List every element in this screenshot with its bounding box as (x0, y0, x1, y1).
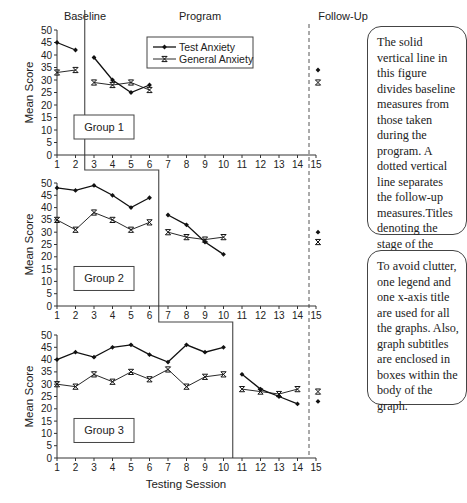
y-tick-label: 20 (41, 403, 53, 414)
general-anxiety-marker (315, 389, 320, 394)
test-anxiety-marker (55, 357, 60, 362)
y-tick-label: 15 (41, 416, 53, 427)
y-tick-label: 30 (41, 379, 53, 390)
y-tick-label: 50 (41, 178, 53, 189)
test-anxiety-marker (110, 345, 115, 350)
y-tick-label: 15 (41, 264, 53, 275)
group-subtitle: Group 1 (84, 121, 124, 133)
x-tick-label: 1 (54, 310, 60, 321)
x-tick-label: 13 (273, 462, 285, 473)
general-anxiety-marker (147, 87, 152, 92)
y-tick-label: 40 (41, 202, 53, 213)
x-tick-label: 6 (147, 159, 153, 170)
annotation-note-legend: To avoid clutter, one legend and one x-a… (367, 250, 467, 405)
test-anxiety-marker (221, 345, 226, 350)
x-tick-label: 1 (54, 159, 60, 170)
y-tick-label: 5 (46, 288, 52, 299)
x-axis-title: Testing Session (146, 478, 227, 490)
x-tick-label: 10 (218, 310, 230, 321)
test-anxiety-line (242, 374, 298, 404)
general-anxiety-line (57, 213, 150, 230)
test-anxiety-marker (316, 399, 321, 404)
y-tick-label: 0 (46, 453, 52, 464)
y-tick-label: 50 (41, 330, 53, 341)
y-tick-label: 20 (41, 100, 53, 111)
x-tick-label: 15 (310, 462, 322, 473)
y-tick-label: 45 (41, 37, 53, 48)
y-axis-title: Mean Score (23, 61, 35, 123)
x-tick-label: 2 (73, 310, 79, 321)
y-tick-label: 10 (41, 428, 53, 439)
test-anxiety-marker (73, 350, 78, 355)
test-anxiety-marker (295, 401, 300, 406)
y-axis-title: Mean Score (23, 213, 35, 275)
stage-title-program: Program (179, 10, 221, 22)
x-tick-label: 10 (218, 159, 230, 170)
x-tick-label: 6 (147, 310, 153, 321)
general-anxiety-marker (128, 369, 133, 374)
test-anxiety-marker (73, 48, 78, 53)
x-tick-label: 10 (218, 462, 230, 473)
y-tick-label: 10 (41, 125, 53, 136)
y-tick-label: 0 (46, 150, 52, 161)
group-subtitle: Group 2 (84, 272, 124, 284)
x-tick-label: 5 (128, 310, 134, 321)
y-tick-label: 40 (41, 354, 53, 365)
x-tick-label: 7 (165, 159, 171, 170)
y-tick-label: 35 (41, 62, 53, 73)
x-tick-label: 7 (165, 310, 171, 321)
x-tick-label: 11 (237, 462, 248, 473)
x-tick-label: 5 (128, 462, 134, 473)
x-tick-label: 8 (184, 310, 190, 321)
test-anxiety-marker (316, 230, 321, 235)
y-tick-label: 20 (41, 251, 53, 262)
y-tick-label: 45 (41, 342, 53, 353)
y-tick-label: 45 (41, 190, 53, 201)
y-tick-label: 0 (46, 301, 52, 312)
x-tick-label: 11 (237, 310, 248, 321)
x-tick-label: 5 (128, 159, 134, 170)
test-anxiety-marker (166, 213, 171, 218)
x-tick-label: 13 (273, 159, 285, 170)
x-tick-label: 6 (147, 462, 153, 473)
x-tick-label: 4 (110, 310, 116, 321)
general-anxiety-marker (165, 367, 170, 372)
test-anxiety-marker (147, 352, 152, 357)
y-tick-label: 35 (41, 214, 53, 225)
test-anxiety-line (57, 43, 76, 51)
general-anxiety-marker (315, 239, 320, 244)
x-tick-label: 3 (91, 159, 97, 170)
test-anxiety-marker (147, 83, 152, 88)
legend: Test AnxietyGeneral Anxiety (147, 37, 254, 68)
panel-group-2: 0510152025303540455012345678910111213141… (23, 178, 322, 322)
x-tick-label: 12 (255, 310, 267, 321)
x-tick-label: 14 (292, 310, 304, 321)
general-anxiety-marker (91, 372, 96, 377)
test-anxiety-line (94, 58, 150, 93)
x-tick-label: 14 (292, 159, 304, 170)
x-tick-label: 15 (310, 159, 322, 170)
panel-group-3: 0510152025303540455012345678910111213141… (23, 330, 322, 474)
test-anxiety-marker (92, 183, 97, 188)
x-tick-label: 3 (91, 462, 97, 473)
general-anxiety-marker (91, 210, 96, 215)
general-anxiety-marker (165, 230, 170, 235)
x-tick-label: 9 (202, 462, 208, 473)
y-tick-label: 40 (41, 50, 53, 61)
x-tick-label: 12 (255, 159, 267, 170)
general-anxiety-marker (110, 217, 115, 222)
test-anxiety-marker (316, 68, 321, 73)
test-anxiety-marker (55, 40, 60, 45)
x-tick-label: 13 (273, 310, 285, 321)
general-anxiety-marker (128, 227, 133, 232)
y-tick-label: 10 (41, 276, 53, 287)
test-anxiety-marker (203, 350, 208, 355)
legend-general-anxiety: General Anxiety (179, 53, 254, 65)
test-anxiety-marker (92, 355, 97, 360)
legend-test-anxiety: Test Anxiety (179, 41, 236, 53)
test-anxiety-line (57, 345, 224, 362)
general-anxiety-marker (315, 80, 320, 85)
general-anxiety-marker (295, 387, 300, 392)
test-anxiety-marker (129, 342, 134, 347)
stage-title-follow-up: Follow-Up (318, 10, 368, 22)
